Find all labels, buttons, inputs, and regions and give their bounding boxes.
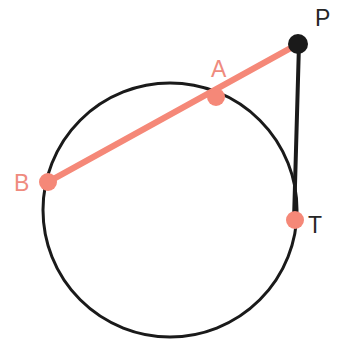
- point-dot-T: [286, 211, 304, 229]
- point-label-A: A: [211, 56, 227, 82]
- point-dot-B: [39, 173, 57, 191]
- tangent-line-pt: [294, 44, 299, 220]
- geometry-canvas: P A B T: [0, 0, 346, 356]
- point-label-P: P: [315, 5, 330, 31]
- point-dot-A: [207, 88, 225, 106]
- secant-line-pb: [48, 44, 298, 182]
- point-label-B: B: [14, 170, 29, 196]
- point-dot-P: [288, 34, 308, 54]
- circle-shape: [43, 83, 297, 337]
- point-label-T: T: [308, 212, 322, 238]
- geometry-diagram: P A B T: [0, 0, 346, 356]
